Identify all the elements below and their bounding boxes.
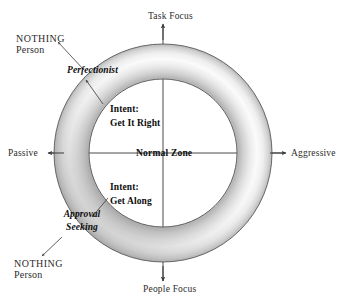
callout-top-nothing-person: NOTHING Person: [16, 33, 65, 55]
callout-bottom-person-text: Person: [14, 269, 63, 280]
intent-top-line1: Intent:: [110, 104, 139, 115]
axis-label-task-focus: Task Focus: [148, 11, 193, 22]
center-zone-label: Normal Zone: [136, 148, 192, 159]
intent-top-line2: Get It Right: [110, 118, 160, 129]
axis-label-people-focus: People Focus: [143, 284, 196, 295]
callout-bottom-nothing-text: NOTHING: [14, 258, 63, 269]
axis-label-passive: Passive: [8, 148, 38, 159]
callout-top-nothing-text: NOTHING: [16, 33, 65, 44]
style-label-perfectionist: Perfectionist: [67, 65, 118, 76]
axis-label-aggressive: Aggressive: [291, 148, 336, 159]
callout-top-person-text: Person: [16, 44, 65, 55]
intent-bottom-line2: Get Along: [110, 196, 152, 207]
callout-bottom-nothing-person: NOTHING Person: [14, 258, 63, 280]
intent-bottom-line1: Intent:: [110, 182, 139, 193]
diagram-canvas: Task Focus People Focus Passive Aggressi…: [0, 0, 352, 304]
style-label-seeking: Seeking: [51, 222, 113, 233]
style-label-approval: Approval: [51, 209, 113, 220]
